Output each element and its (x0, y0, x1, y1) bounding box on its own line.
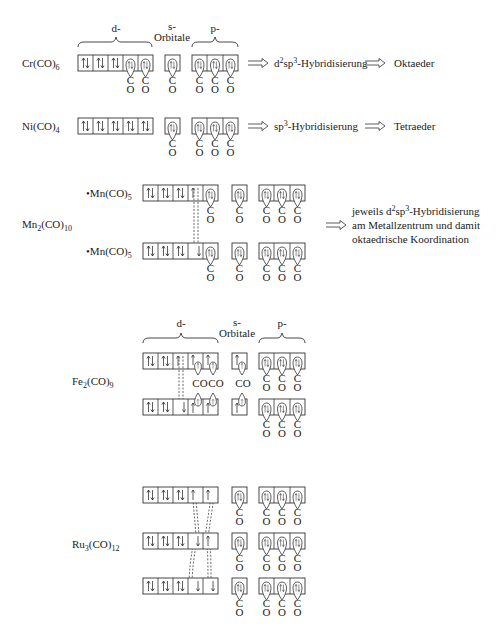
svg-text:O: O (236, 271, 244, 283)
svg-text:O: O (127, 83, 135, 95)
d-brace (143, 333, 218, 343)
svg-text:oktaedrische Koordination: oktaedrische Koordination (352, 233, 469, 245)
svg-text:O: O (278, 561, 286, 573)
svg-text:O: O (207, 213, 215, 225)
svg-text:O: O (294, 381, 302, 393)
bridging-co: CO (208, 377, 223, 389)
svg-text:O: O (263, 561, 271, 573)
formula-ru: Ru3(CO)12 (72, 538, 119, 553)
svg-text:O: O (227, 83, 235, 95)
svg-text:O: O (294, 561, 302, 573)
p-brace (192, 37, 238, 47)
formula-mn: Mn2(CO)10 (22, 218, 72, 233)
svg-text:jeweils d2sp3-Hybridisierung: jeweils d2sp3-Hybridisierung (351, 204, 480, 217)
mn-fragment-bottom: •Mn(CO)5 (86, 245, 132, 260)
svg-text:O: O (278, 271, 286, 283)
svg-text:O: O (236, 213, 244, 225)
svg-text:O: O (278, 381, 286, 393)
fe-block: d- s- Orbitale p- Fe2(CO)9 CO CO CO CO C… (72, 316, 305, 439)
implies-arrow-icon (248, 59, 268, 68)
svg-text:O: O (278, 427, 286, 439)
svg-text:O: O (278, 213, 286, 225)
cr-block: d- s- Orbitale p- Cr(CO)6 CO CO CO CO CO… (22, 20, 435, 95)
d-brace (78, 37, 152, 47)
svg-text:d-: d- (176, 317, 186, 329)
svg-text:p-: p- (277, 317, 287, 329)
implies-arrow-icon (248, 122, 268, 131)
svg-text:O: O (294, 606, 302, 618)
implies-arrow-icon (365, 122, 385, 131)
ni-block: Ni(CO)4 CO CO CO CO sp3-Hybridisierung T… (22, 118, 436, 158)
ni-geometry: Tetraeder (394, 120, 436, 132)
svg-text:O: O (278, 515, 286, 527)
svg-text:O: O (236, 606, 244, 618)
svg-text:O: O (227, 146, 235, 158)
svg-text:O: O (211, 83, 219, 95)
cr-geometry: Oktaeder (394, 57, 435, 69)
svg-text:O: O (142, 83, 150, 95)
formula-cr: Cr(CO)6 (22, 57, 60, 72)
d-orbital-box (78, 118, 153, 134)
orbital-diagram: d- s- Orbitale p- Cr(CO)6 CO CO CO CO CO… (0, 0, 499, 634)
svg-text:O: O (263, 213, 271, 225)
ru-row-3: CO CO CO CO (143, 578, 305, 618)
svg-text:O: O (236, 561, 244, 573)
bridging-co: CO (192, 377, 207, 389)
svg-text:Orbitale: Orbitale (219, 327, 255, 339)
bridging-co: CO (235, 377, 250, 389)
ru-block: Ru3(CO)12 CO CO CO CO (72, 487, 305, 618)
svg-text:O: O (294, 213, 302, 225)
svg-text:O: O (211, 146, 219, 158)
mn-fragment-top: •Mn(CO)5 (86, 187, 132, 202)
p-header: p- (210, 22, 220, 34)
svg-text:O: O (278, 606, 286, 618)
implies-arrow-icon (326, 221, 346, 230)
formula-fe: Fe2(CO)9 (72, 375, 114, 390)
svg-text:O: O (236, 515, 244, 527)
ru-row-1: CO CO CO CO (143, 487, 305, 527)
svg-text:O: O (207, 271, 215, 283)
ni-hybridization: sp3-Hybridisierung (274, 119, 359, 132)
svg-text:O: O (263, 515, 271, 527)
svg-text:O: O (294, 515, 302, 527)
svg-text:O: O (196, 146, 204, 158)
d-orbital-box (143, 578, 218, 594)
svg-text:am Metallzentrum und damit: am Metallzentrum und damit (352, 219, 480, 231)
d-header: d- (111, 22, 121, 34)
svg-text:O: O (263, 606, 271, 618)
d-orbital-box (143, 487, 218, 503)
svg-text:O: O (196, 83, 204, 95)
p-brace (259, 333, 305, 343)
ru-row-2: CO CO CO CO (143, 533, 305, 573)
d-orbital-box (143, 353, 218, 369)
d-orbital-box (143, 399, 218, 415)
svg-text:O: O (169, 146, 177, 158)
svg-text:O: O (169, 83, 177, 95)
orbitale-header: Orbitale (154, 31, 190, 43)
svg-text:O: O (263, 427, 271, 439)
svg-text:O: O (263, 381, 271, 393)
svg-text:O: O (294, 271, 302, 283)
mn-block: Mn2(CO)10 •Mn(CO)5 CO CO CO CO CO •Mn(CO… (22, 185, 480, 283)
formula-ni: Ni(CO)4 (22, 120, 60, 135)
cr-hybridization: d2sp3-Hybridisierung (274, 56, 368, 69)
implies-arrow-icon (365, 59, 385, 68)
svg-text:O: O (263, 271, 271, 283)
svg-text:O: O (294, 427, 302, 439)
d-orbital-box (143, 533, 218, 549)
mn-note: jeweils d2sp3-Hybridisierung am Metallze… (351, 204, 480, 245)
